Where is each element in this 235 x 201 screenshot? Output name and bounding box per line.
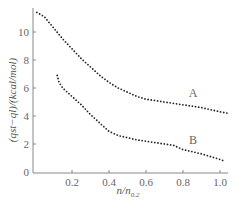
data-point [166, 101, 168, 103]
data-point [191, 151, 193, 153]
data-point [63, 88, 65, 90]
data-point [78, 101, 80, 103]
data-point [191, 105, 193, 107]
y-axis-label: (qst−ql)/(kcal/mol) [6, 57, 19, 142]
data-point [160, 101, 162, 103]
data-point [216, 157, 218, 159]
data-point [141, 140, 143, 142]
data-point [92, 68, 94, 70]
data-point [62, 39, 64, 41]
data-point [217, 110, 219, 112]
data-point [144, 140, 146, 142]
data-point [138, 96, 140, 98]
data-point [219, 158, 221, 160]
data-point [122, 136, 124, 138]
data-point [117, 87, 119, 89]
data-point [169, 102, 171, 104]
data-point [135, 139, 137, 141]
data-point [222, 159, 224, 161]
data-point [59, 83, 61, 85]
data-series [36, 12, 228, 162]
data-point [76, 53, 78, 55]
x-tick-label: 1.0 [213, 176, 227, 188]
data-point [58, 34, 60, 36]
data-point [176, 146, 178, 148]
data-point [42, 15, 44, 17]
data-point [61, 86, 63, 88]
data-point [97, 72, 99, 74]
series-A [36, 12, 228, 115]
data-point [126, 91, 128, 93]
data-point [89, 66, 91, 68]
data-point [179, 147, 181, 149]
data-point [132, 138, 134, 140]
data-point [98, 121, 100, 123]
x-tick-label: 0.2 [65, 176, 79, 188]
data-point [207, 108, 209, 110]
data-point [71, 48, 73, 50]
data-point [48, 21, 50, 23]
data-point [210, 109, 212, 111]
data-point [44, 17, 46, 19]
data-point [157, 142, 159, 144]
data-point [68, 93, 70, 95]
data-point [108, 130, 110, 132]
data-point [201, 107, 203, 109]
data-point [198, 106, 200, 108]
data-point [223, 112, 225, 114]
y-tick-label: 10 [18, 26, 30, 38]
data-point [73, 97, 75, 99]
data-point [185, 149, 187, 151]
x-axis-label: n/n0.2 [117, 184, 140, 199]
data-point [75, 99, 77, 101]
y-tick-label: 2 [24, 138, 30, 150]
data-point [206, 155, 208, 157]
data-point [163, 143, 165, 145]
data-point [58, 81, 60, 83]
x-tick-label: 0.6 [139, 176, 153, 188]
x-tick-label: 0.4 [102, 176, 116, 188]
data-point [154, 142, 156, 144]
data-point [172, 102, 174, 104]
data-point [56, 31, 58, 33]
data-point [93, 117, 95, 119]
data-point [197, 152, 199, 154]
data-point [109, 82, 111, 84]
data-point [188, 105, 190, 107]
series-labels: AB [189, 86, 198, 147]
data-point [85, 62, 87, 64]
axes [33, 8, 228, 173]
data-point [220, 111, 222, 113]
data-point [89, 113, 91, 115]
data-point [120, 88, 122, 90]
data-point [82, 60, 84, 62]
data-point [80, 57, 82, 59]
data-point [56, 75, 58, 77]
data-point [123, 90, 125, 92]
data-point [57, 78, 59, 80]
data-point [113, 133, 115, 135]
data-point [210, 156, 212, 158]
data-point [96, 119, 98, 121]
data-point [154, 100, 156, 102]
y-tick-label: 0 [24, 166, 30, 178]
data-point [105, 128, 107, 130]
data-point [116, 134, 118, 136]
data-point [99, 75, 101, 77]
data-point [73, 50, 75, 52]
series-label-A: A [189, 86, 198, 100]
data-point [203, 154, 205, 156]
chart-canvas: 0.20.40.60.81.00246810 AB n/n0.2 (qst−ql… [0, 0, 235, 201]
data-point [182, 148, 184, 150]
data-point [157, 100, 159, 102]
data-point [141, 97, 143, 99]
data-point [163, 101, 165, 103]
data-point [103, 126, 105, 128]
data-point [167, 144, 169, 146]
data-point [204, 107, 206, 109]
data-point [101, 76, 103, 78]
data-point [78, 55, 80, 57]
data-point [135, 95, 137, 97]
data-point [188, 150, 190, 152]
data-point [70, 95, 72, 97]
